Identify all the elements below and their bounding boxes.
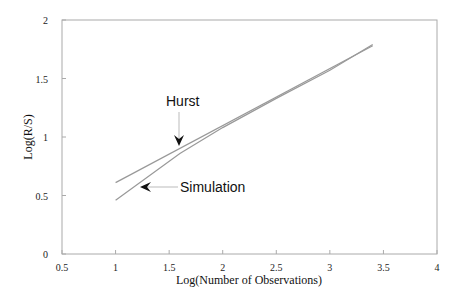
chart: 00.511.52 0.511.522.533.54 Log(Number of… xyxy=(0,0,462,299)
x-axis: 0.511.522.533.54 xyxy=(56,250,440,273)
y-tick-label: 0.5 xyxy=(36,191,49,202)
y-tick-label: 1 xyxy=(43,132,48,143)
x-tick-label: 2 xyxy=(220,262,225,273)
x-axis-label: Log(Number of Observations) xyxy=(176,273,322,287)
x-tick-label: 0.5 xyxy=(56,262,69,273)
y-axis: 00.511.52 xyxy=(36,15,67,260)
series-line-hurst xyxy=(116,46,373,183)
x-tick-label: 3 xyxy=(327,262,332,273)
y-tick-label: 0 xyxy=(43,249,48,260)
plot-frame xyxy=(62,20,437,254)
x-tick-label: 1.5 xyxy=(163,262,176,273)
y-tick-label: 2 xyxy=(43,15,48,26)
x-tick-label: 1 xyxy=(113,262,118,273)
simulation-label: Simulation xyxy=(180,179,245,195)
series-line-simulation xyxy=(116,45,373,201)
y-axis-label: Log(R/S) xyxy=(21,114,35,159)
x-tick-label: 4 xyxy=(435,262,440,273)
series-lines xyxy=(116,45,373,201)
x-tick-label: 3.5 xyxy=(377,262,390,273)
hurst-label: Hurst xyxy=(166,93,200,109)
x-tick-label: 2.5 xyxy=(270,262,283,273)
y-tick-label: 1.5 xyxy=(36,74,49,85)
